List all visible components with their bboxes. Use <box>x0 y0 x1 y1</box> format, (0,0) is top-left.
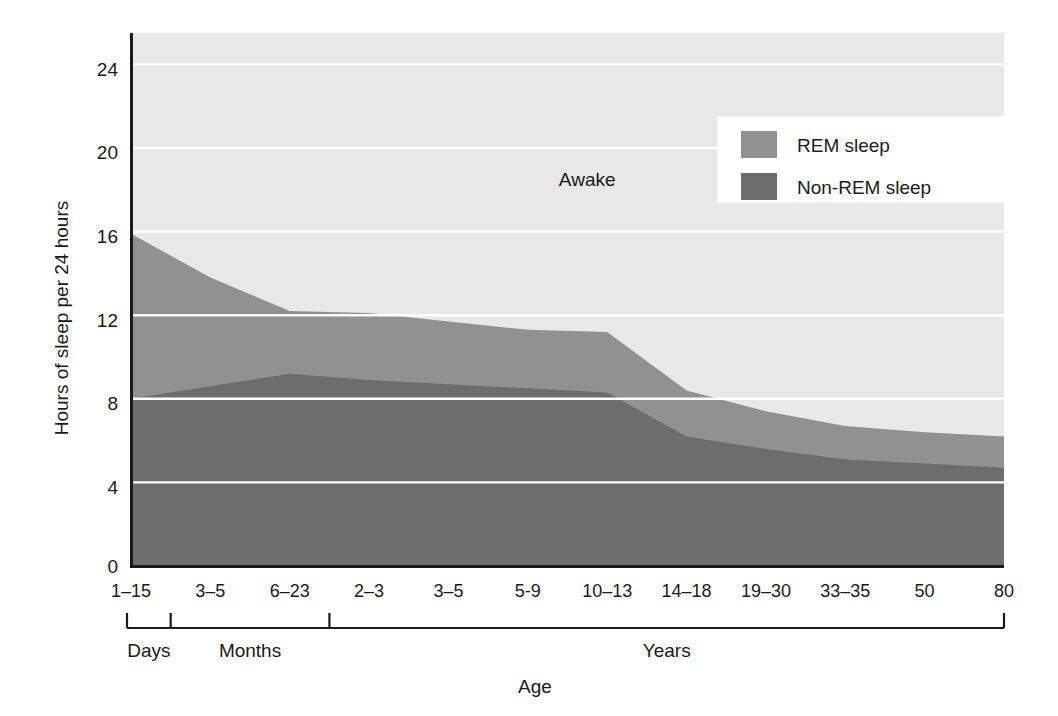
legend-swatch-1 <box>741 173 777 200</box>
x-category-label-2: 6–23 <box>270 581 310 601</box>
x-group-brackets-group: DaysMonthsYears <box>127 613 1004 661</box>
x-axis-title: Age <box>518 676 552 697</box>
x-category-label-1: 3–5 <box>195 581 225 601</box>
legend: REM sleepNon-REM sleep <box>717 116 1006 203</box>
x-category-label-4: 3–5 <box>433 581 463 601</box>
x-category-label-10: 50 <box>915 581 935 601</box>
legend-label-0: REM sleep <box>797 135 890 156</box>
y-tick-label-0: 0 <box>107 556 118 577</box>
annotations-group: Awake <box>559 169 616 190</box>
x-category-label-6: 10–13 <box>582 581 632 601</box>
x-category-label-0: 1–15 <box>111 581 151 601</box>
stacked-area-chart: 24 20 16 12 8 4 0 Hours of sleep per 24 … <box>0 0 1058 716</box>
y-axis-title: Hours of sleep per 24 hours <box>51 201 72 435</box>
annotation-awake: Awake <box>559 169 616 190</box>
y-tick-label-8: 8 <box>107 393 118 414</box>
x-category-label-5: 5-9 <box>515 581 541 601</box>
x-group-label-days: Days <box>127 640 170 661</box>
y-tick-label-16: 16 <box>97 226 118 247</box>
x-category-label-3: 2–3 <box>354 581 384 601</box>
y-tick-labels-group: 24 20 16 12 8 4 0 <box>97 59 119 577</box>
x-group-label-months: Months <box>219 640 281 661</box>
y-tick-label-4: 4 <box>107 477 118 498</box>
x-category-label-11: 80 <box>994 581 1014 601</box>
y-tick-label-24: 24 <box>97 59 119 80</box>
legend-label-1: Non-REM sleep <box>797 177 931 198</box>
sleep-stages-by-age-figure: 24 20 16 12 8 4 0 Hours of sleep per 24 … <box>0 0 1058 716</box>
x-category-label-7: 14–18 <box>662 581 712 601</box>
x-category-label-8: 19–30 <box>741 581 791 601</box>
x-group-label-years: Years <box>643 640 691 661</box>
y-tick-label-12: 12 <box>97 310 118 331</box>
x-category-label-9: 33–35 <box>820 581 870 601</box>
y-tick-label-20: 20 <box>97 142 118 163</box>
x-category-labels-group: 1–153–56–232–33–55-910–1314–1819–3033–35… <box>111 581 1014 601</box>
legend-swatch-0 <box>741 131 777 158</box>
